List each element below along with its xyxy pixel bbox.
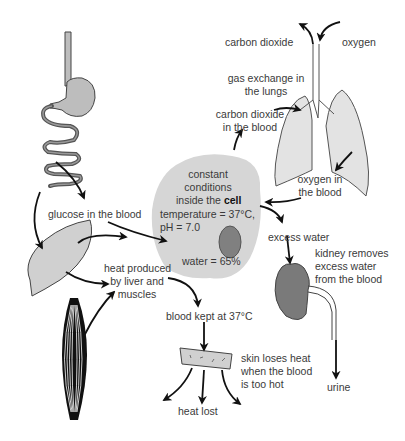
label-blood-kept: blood kept at 37°C [166,310,253,323]
label-gas-exchange: gas exchange in the lungs [224,72,308,98]
label-water: water = 65% [182,255,241,268]
label-skin-loses-heat: skin loses heat when the blood is too ho… [241,352,312,391]
label-co2-in-blood: carbon dioxide in the blood [212,108,288,134]
label-heat-lost: heat lost [178,405,218,418]
ureter [308,286,336,340]
label-temperature: temperature = 37°C, [160,208,255,221]
label-excess-water: excess water [268,231,329,244]
stomach-icon [50,32,95,116]
label-constant-conditions: constant conditions inside the cell [176,168,240,207]
label-urine: urine [327,381,350,394]
label-kidney-removes: kidney removes excess water from the blo… [315,247,389,286]
kidney-icon [275,264,309,320]
label-carbon-dioxide-out: carbon dioxide [225,36,293,49]
label-heat-produced: heat produced by liver and muscles [104,262,170,301]
label-ph: pH = 7.0 [160,221,200,234]
cell-keyword: cell [224,194,242,206]
cell-nucleus [219,226,241,258]
muscle-icon [62,298,87,420]
label-oxygen-in-blood: oxygen in the blood [290,173,350,199]
label-oxygen-in: oxygen [342,36,376,49]
label-glucose: glucose in the blood [48,208,141,221]
liver-icon [28,220,92,296]
